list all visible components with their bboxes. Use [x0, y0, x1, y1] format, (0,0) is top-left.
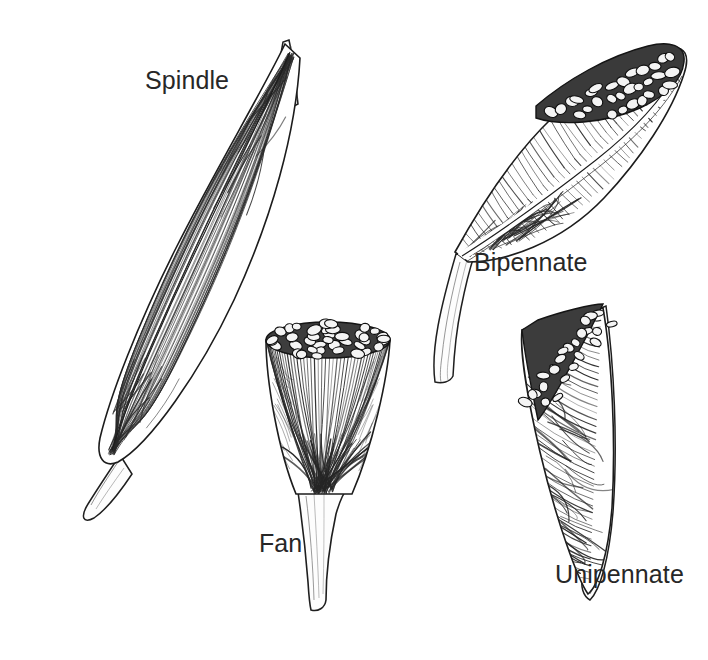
- spindle-distal-tendon: [83, 455, 132, 520]
- label-fan: Fan: [259, 531, 302, 556]
- label-bipennate: Bipennate: [474, 250, 588, 275]
- label-spindle: Spindle: [145, 68, 229, 93]
- unipennate-specimen: [517, 304, 618, 600]
- spindle-specimen: [83, 40, 300, 520]
- label-unipennate: Unipennate: [555, 562, 684, 587]
- fan-specimen: [265, 318, 392, 610]
- bipennate-tendon-stalk: [434, 254, 474, 383]
- fan-tendon: [298, 488, 348, 611]
- illustration-canvas: Spindle Bipennate Fan Unipennate: [0, 0, 708, 660]
